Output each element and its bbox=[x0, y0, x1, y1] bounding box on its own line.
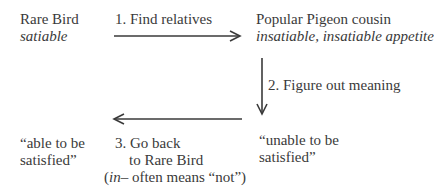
arrow-left-icon bbox=[114, 114, 242, 124]
arrow-right-icon bbox=[114, 31, 240, 41]
step2-label: 2. Figure out meaning bbox=[268, 77, 400, 94]
rare-bird-title: Rare Bird bbox=[20, 11, 79, 28]
unable-line2: satisfied” bbox=[259, 149, 316, 166]
rare-bird-word: satiable bbox=[20, 28, 68, 45]
pigeon-cousin-words: insatiable, insatiable appetite bbox=[256, 28, 434, 45]
able-line1: “able to be bbox=[20, 135, 85, 152]
arrow-down-icon bbox=[257, 58, 267, 114]
note-rest: – often means “not”) bbox=[121, 169, 246, 185]
unable-line1: “unable to be bbox=[259, 132, 339, 149]
able-line2: satisfied” bbox=[20, 152, 77, 169]
step3-note: (in– often means “not”) bbox=[104, 169, 246, 186]
step3-line2: to Rare Bird bbox=[129, 152, 203, 169]
step3-line1: 3. Go back bbox=[115, 135, 180, 152]
note-prefix-in: in bbox=[109, 169, 121, 185]
pigeon-cousin-title: Popular Pigeon cousin bbox=[256, 11, 391, 28]
step1-label: 1. Find relatives bbox=[115, 11, 212, 28]
